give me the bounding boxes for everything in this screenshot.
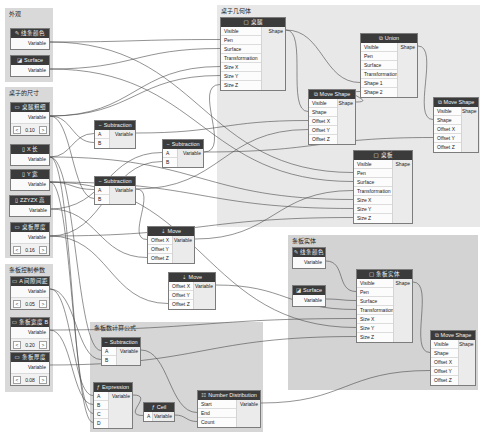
- node-header[interactable]: ⧉Move Shape: [434, 98, 478, 107]
- input-port-b[interactable]: B: [95, 139, 109, 148]
- value-slider[interactable]: < 0.16 >: [11, 244, 49, 255]
- input-port-offset-x[interactable]: Offset X: [309, 117, 337, 126]
- move-shape-node[interactable]: ⧉Move Shape VisibleShape Shape Offset X …: [433, 97, 479, 153]
- node-header[interactable]: ▭条板宽度 B: [11, 318, 49, 327]
- node-header[interactable]: ▢桌腿: [221, 18, 285, 27]
- output-port-shape[interactable]: Shape: [397, 43, 417, 52]
- node-header[interactable]: ▭条板厚度: [11, 353, 49, 362]
- output-port-variable[interactable]: Variable: [11, 327, 49, 339]
- node-header[interactable]: ⧉Move Shape: [431, 331, 475, 340]
- increment-button[interactable]: >: [39, 376, 47, 384]
- decrement-button[interactable]: <: [13, 246, 21, 254]
- input-port-offset-y[interactable]: Offset Y: [169, 291, 193, 300]
- input-port-visible[interactable]: Visible: [361, 43, 397, 52]
- input-port-surface[interactable]: Surface: [361, 61, 397, 70]
- board-thickness-slider-node[interactable]: ▭桌板厚度 Variable < 0.16 >: [10, 222, 50, 256]
- value-slider[interactable]: < 0.05 >: [11, 298, 49, 309]
- table-leg-node[interactable]: ▢桌腿 VisibleShape Pen Surface Transformat…: [220, 17, 286, 91]
- decrement-button[interactable]: <: [13, 341, 21, 349]
- input-port-size-x[interactable]: Size X: [221, 63, 261, 72]
- x-length-node[interactable]: ▯X 长 Variable: [10, 144, 50, 166]
- output-port-variable[interactable]: Variable: [172, 236, 194, 245]
- output-port-variable[interactable]: Variable: [11, 154, 49, 165]
- node-header[interactable]: ✎线条颜色: [293, 248, 325, 257]
- input-port-c[interactable]: C: [94, 410, 108, 419]
- output-port-shape[interactable]: Shape: [458, 340, 475, 349]
- move-node[interactable]: ⇣Move Offset XVariable Offset Y Offset Z: [168, 272, 216, 310]
- input-port-a[interactable]: A: [144, 412, 152, 421]
- increment-button[interactable]: >: [39, 300, 47, 308]
- input-port-size-y[interactable]: Size Y: [357, 324, 393, 333]
- input-port-transformation[interactable]: Transformation: [221, 54, 261, 63]
- input-port-offset-z[interactable]: Offset Z: [431, 376, 458, 385]
- node-header[interactable]: ⇣Move: [148, 227, 194, 236]
- ceil-node[interactable]: ƒCeil AVariable: [143, 402, 175, 422]
- subtraction-node[interactable]: −Subtraction AVariable B: [94, 120, 136, 149]
- node-header[interactable]: ◪Surface: [11, 56, 49, 65]
- expression-node[interactable]: ƒExpression AVariable B C D: [93, 382, 133, 429]
- input-port-end[interactable]: End: [198, 409, 236, 418]
- input-port-offset-x[interactable]: Offset X: [169, 282, 193, 291]
- input-port-shape-1[interactable]: Shape 1: [361, 79, 397, 88]
- input-port-shape[interactable]: Shape: [434, 116, 461, 125]
- input-port-offset-z[interactable]: Offset Z: [309, 135, 337, 144]
- input-port-offset-z[interactable]: Offset Z: [148, 254, 172, 263]
- input-port-pen[interactable]: Pen: [221, 36, 261, 45]
- node-header[interactable]: −Subtraction: [102, 338, 140, 347]
- output-port-variable[interactable]: Variable: [10, 205, 50, 216]
- node-graph-canvas[interactable]: 外观 桌子的尺寸 条板控制参数 桌子几何体 条板实体 条板数计算公式: [0, 0, 488, 440]
- input-port-offset-z[interactable]: Offset Z: [169, 300, 193, 309]
- increment-button[interactable]: >: [39, 246, 47, 254]
- input-port-visible[interactable]: Visible: [354, 160, 392, 169]
- line-color-node[interactable]: ✎线条颜色 Variable: [10, 28, 50, 50]
- slat-width-slider-node[interactable]: ▭条板宽度 B Variable < 0.20 >: [10, 317, 50, 351]
- subtraction-node[interactable]: −Subtraction AVariable B: [94, 176, 136, 205]
- move-node[interactable]: ⇣Move Offset XVariable Offset Y Offset Z: [147, 226, 195, 264]
- output-port-shape[interactable]: Shape: [393, 279, 412, 288]
- node-header[interactable]: ƒExpression: [94, 383, 132, 392]
- output-port-variable[interactable]: Variable: [11, 65, 49, 76]
- input-port-offset-x[interactable]: Offset X: [434, 125, 461, 134]
- subtraction-node[interactable]: −Subtraction AVariable B: [101, 337, 141, 366]
- output-port-shape[interactable]: Shape: [261, 27, 285, 36]
- output-port-variable[interactable]: Variable: [109, 186, 135, 195]
- decrement-button[interactable]: <: [13, 376, 21, 384]
- output-port-variable[interactable]: Variable: [177, 149, 203, 158]
- input-port-transformation[interactable]: Transformation: [361, 70, 397, 79]
- output-port-variable[interactable]: Variable: [11, 286, 49, 298]
- input-port-size-x[interactable]: Size X: [354, 196, 392, 205]
- input-port-a[interactable]: A: [163, 149, 177, 158]
- decrement-button[interactable]: <: [13, 126, 21, 134]
- input-port-offset-y[interactable]: Offset Y: [148, 245, 172, 254]
- node-header[interactable]: ƒCeil: [144, 403, 174, 412]
- output-port-variable[interactable]: Variable: [193, 282, 215, 291]
- input-port-a[interactable]: A: [95, 130, 109, 139]
- output-port-variable[interactable]: Variable: [108, 392, 132, 401]
- input-port-offset-x[interactable]: Offset X: [431, 358, 458, 367]
- node-header[interactable]: ⧉Union: [361, 34, 417, 43]
- node-header[interactable]: ▯X 长: [11, 145, 49, 154]
- value-slider[interactable]: < 0.10 >: [11, 124, 49, 135]
- move-shape-node[interactable]: ⧉Move Shape VisibleShape Shape Offset X …: [430, 330, 476, 386]
- input-port-offset-y[interactable]: Offset Y: [431, 367, 458, 376]
- gap-spacing-slider-node[interactable]: ▭A 间隙间距 Variable < 0.05 >: [10, 276, 50, 310]
- leg-thickness-slider-node[interactable]: ▭桌腿粗细 Variable < 0.10 >: [10, 102, 50, 136]
- surface-node[interactable]: ◪Surface Variable: [10, 55, 50, 77]
- node-header[interactable]: ▢条板实体: [357, 270, 412, 279]
- node-header[interactable]: ▭桌板厚度: [11, 223, 49, 232]
- input-port-shape[interactable]: Shape: [431, 349, 458, 358]
- input-port-size-y[interactable]: Size Y: [354, 205, 392, 214]
- input-port-a[interactable]: A: [94, 392, 108, 401]
- move-shape-node[interactable]: ⧉Move Shape VisibleShape Shape Offset X …: [308, 89, 356, 145]
- input-port-shape-2[interactable]: Shape 2: [361, 88, 397, 97]
- output-port-variable[interactable]: Variable: [11, 38, 49, 49]
- input-port-b[interactable]: B: [95, 195, 109, 204]
- output-port-variable[interactable]: Variable: [293, 295, 325, 306]
- input-port-visible[interactable]: Visible: [221, 27, 261, 36]
- input-port-d[interactable]: D: [94, 419, 108, 428]
- input-port-offset-z[interactable]: Offset Z: [434, 143, 461, 152]
- input-port-pen[interactable]: Pen: [361, 52, 397, 61]
- output-port-variable[interactable]: Variable: [152, 412, 174, 421]
- node-header[interactable]: ▯Y 宽: [11, 170, 49, 179]
- output-port-variable[interactable]: Variable: [236, 400, 260, 409]
